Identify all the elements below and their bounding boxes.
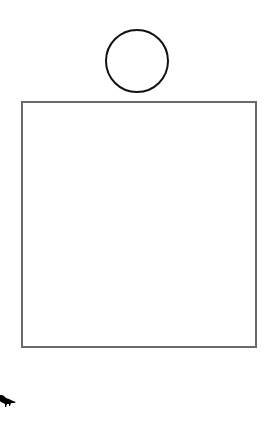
rectangle-shape bbox=[21, 101, 257, 348]
animal-silhouette-icon bbox=[0, 392, 18, 410]
circle-shape bbox=[105, 29, 169, 93]
diagram-canvas bbox=[0, 0, 270, 430]
